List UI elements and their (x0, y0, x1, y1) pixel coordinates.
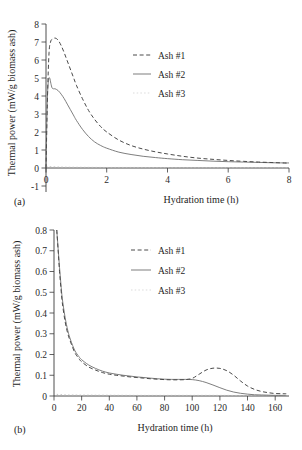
x-tick-b-160: 160 (268, 403, 283, 413)
x-ticklabels-a: 0 2 4 6 8 (44, 175, 292, 185)
y-tick-b-01: 0.1 (35, 371, 47, 381)
y-tick-b-07: 0.7 (35, 246, 47, 256)
x-tick-b-120: 120 (213, 403, 228, 413)
x-tick-b-0: 0 (52, 403, 57, 413)
x-ticks-a (46, 168, 289, 173)
y-tick-b-00: 0 (42, 392, 47, 402)
x-ticks-b (54, 396, 275, 401)
legend-a-label-ash1: Ash #1 (158, 51, 185, 61)
y-tick-a-1: 1 (34, 146, 39, 156)
x-tick-b-60: 60 (132, 403, 142, 413)
x-tick-a-4: 4 (165, 175, 170, 185)
y-tick-a-0: 0 (34, 164, 39, 174)
curve-ash3-a (46, 167, 289, 168)
y-tick-a-3: 3 (34, 110, 39, 120)
y-tick-b-03: 0.3 (35, 329, 47, 339)
legend-b-label-ash3: Ash #3 (158, 286, 185, 296)
y-tick-a-6: 6 (34, 56, 39, 66)
y-tick-a-neg1: -1 (31, 182, 39, 192)
x-tick-b-40: 40 (105, 403, 115, 413)
legend-b-label-ash1: Ash #1 (158, 246, 185, 256)
legend-a-label-ash2: Ash #2 (158, 70, 185, 80)
legend-b-label-ash2: Ash #2 (158, 266, 185, 276)
x-tick-b-140: 140 (240, 403, 255, 413)
y-tick-b-05: 0.5 (35, 288, 47, 298)
chart-b-svg: 0.8 0.7 0.6 0.5 0.4 0.3 0.2 0.1 0 (0, 218, 302, 450)
y-axis-title-b: Thermal power (mW/g biomass ash) (11, 241, 23, 388)
chart-panel-b: 0.8 0.7 0.6 0.5 0.4 0.3 0.2 0.1 0 (0, 218, 302, 450)
legend-a-label-ash3: Ash #3 (158, 89, 185, 99)
legend-a: Ash #1 Ash #2 Ash #3 (133, 51, 185, 99)
x-tick-a-0: 0 (44, 175, 49, 185)
y-tick-b-06: 0.6 (35, 267, 47, 277)
legend-b: Ash #1 Ash #2 Ash #3 (131, 246, 185, 296)
y-ticks-a (42, 24, 47, 186)
y-axis-title-a: Thermal power (mW/g biomass ash) (6, 30, 18, 177)
y-tick-b-02: 0.2 (35, 350, 47, 360)
x-tick-a-2: 2 (104, 175, 109, 185)
y-tick-a-5: 5 (34, 74, 39, 84)
y-tick-a-2: 2 (34, 128, 39, 138)
x-tick-a-6: 6 (226, 175, 231, 185)
chart-a-svg: 8 7 6 5 4 3 2 1 0 -1 0 2 (0, 0, 302, 218)
y-tick-a-8: 8 (34, 20, 39, 30)
x-tick-b-100: 100 (185, 403, 200, 413)
x-tick-b-20: 20 (77, 403, 87, 413)
panel-label-a: (a) (14, 196, 25, 208)
y-tick-a-4: 4 (34, 92, 39, 102)
x-tick-a-8: 8 (287, 175, 292, 185)
y-ticks-b (50, 230, 55, 396)
y-tick-b-04: 0.4 (35, 309, 47, 319)
x-axis-title-b: Hydration time (h) (138, 422, 213, 434)
x-tick-b-80: 80 (160, 403, 170, 413)
figure-container: 8 7 6 5 4 3 2 1 0 -1 0 2 (0, 0, 302, 450)
x-axis-title-a: Hydration time (h) (164, 194, 239, 206)
chart-panel-a: 8 7 6 5 4 3 2 1 0 -1 0 2 (0, 0, 302, 218)
y-ticklabels-b: 0.8 0.7 0.6 0.5 0.4 0.3 0.2 0.1 0 (35, 226, 47, 402)
y-tick-a-7: 7 (34, 38, 39, 48)
y-ticklabels-a: 8 7 6 5 4 3 2 1 0 -1 (31, 20, 39, 192)
y-tick-b-08: 0.8 (35, 226, 47, 236)
x-ticklabels-b: 0 20 40 60 80 100 120 140 160 (52, 403, 283, 413)
panel-label-b: (b) (14, 424, 26, 436)
